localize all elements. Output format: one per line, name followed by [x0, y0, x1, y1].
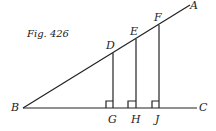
label-e: E — [130, 26, 138, 37]
geometry-figure: Fig. 426 A B C D E F G H J — [0, 0, 216, 131]
ray-ba — [23, 5, 190, 108]
label-g: G — [108, 114, 117, 125]
label-a: A — [190, 0, 198, 11]
figure-caption: Fig. 426 — [27, 28, 69, 39]
label-d: D — [106, 40, 115, 51]
figure-drawing — [0, 0, 216, 131]
right-angle-g — [106, 101, 113, 108]
label-j: J — [155, 114, 159, 125]
label-f: F — [154, 12, 162, 23]
right-angle-j — [152, 101, 159, 108]
label-c: C — [199, 102, 207, 113]
label-b: B — [11, 102, 19, 113]
label-h: H — [131, 114, 141, 125]
right-angle-h — [128, 101, 136, 108]
